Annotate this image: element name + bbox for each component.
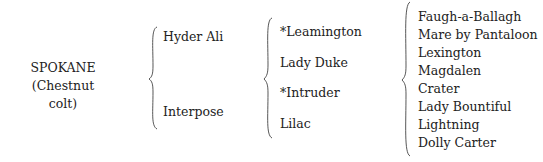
brace-generation3 xyxy=(401,1,413,157)
ancestor-7: Lightning xyxy=(418,117,479,132)
subject-horse: SPOKANE (Chestnut colt) xyxy=(22,59,104,113)
sire-sire: *Leamington xyxy=(280,24,362,39)
ancestor-5: Crater xyxy=(418,81,459,96)
ancestor-3: Lexington xyxy=(418,45,481,60)
brace-generation1 xyxy=(148,26,160,130)
brace-generation2 xyxy=(263,17,275,139)
sire: Hyder Ali xyxy=(163,29,223,44)
ancestor-4: Magdalen xyxy=(418,63,481,78)
ancestor-1: Faugh-a-Ballagh xyxy=(418,9,521,24)
ancestor-2: Mare by Pantaloon xyxy=(418,27,538,42)
subject-name: SPOKANE xyxy=(22,59,104,77)
sire-dam: Lady Duke xyxy=(280,55,348,70)
ancestor-6: Lady Bountiful xyxy=(418,99,511,114)
ancestor-8: Dolly Carter xyxy=(418,135,496,150)
dam-dam: Lilac xyxy=(280,116,311,131)
dam-sire: *Intruder xyxy=(280,85,340,100)
subject-description: (Chestnut colt) xyxy=(22,77,104,113)
dam: Interpose xyxy=(163,104,224,119)
